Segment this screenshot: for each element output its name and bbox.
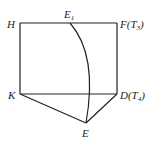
geometry-diagram: H E1 F(T3) K D(T4) E bbox=[0, 0, 154, 144]
segment-ke bbox=[20, 94, 86, 123]
label-h: H bbox=[6, 18, 16, 30]
label-f: F(T3) bbox=[119, 18, 144, 32]
label-e1: E1 bbox=[63, 8, 74, 22]
segment-de bbox=[86, 94, 117, 123]
curve-e1-e bbox=[70, 23, 90, 123]
label-d: D(T4) bbox=[119, 89, 145, 103]
label-e: E bbox=[81, 127, 89, 139]
label-k: K bbox=[7, 89, 16, 101]
